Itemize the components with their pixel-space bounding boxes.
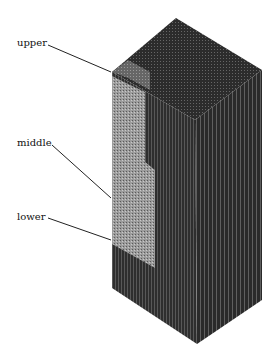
label-upper: upper xyxy=(17,38,47,48)
prism-graphic xyxy=(0,0,280,364)
leader-upper xyxy=(48,45,111,72)
label-middle: middle xyxy=(17,138,52,148)
block-diagram: upper middle lower xyxy=(0,0,280,364)
leader-lower xyxy=(48,218,111,240)
leader-middle xyxy=(52,145,111,198)
label-lower: lower xyxy=(17,212,45,222)
